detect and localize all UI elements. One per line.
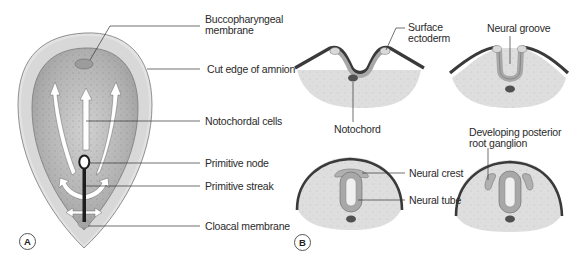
notochord bbox=[346, 216, 356, 223]
panel-b-stage-1 bbox=[295, 47, 424, 108]
label-cloacal-membrane: Cloacal membrane bbox=[205, 221, 290, 232]
label-notochordal-cells: Notochordal cells bbox=[205, 116, 282, 127]
primitive-streak bbox=[83, 165, 87, 222]
label-line: membrane bbox=[205, 25, 283, 36]
notochord bbox=[505, 216, 515, 223]
label-line: ectoderm bbox=[408, 33, 450, 44]
label-neural-tube: Neural tube bbox=[409, 195, 461, 206]
notochord bbox=[505, 86, 515, 93]
buccopharyngeal-membrane bbox=[75, 59, 93, 69]
panel-b-stage-3 bbox=[297, 157, 402, 230]
panel-b-stage-4 bbox=[455, 160, 562, 232]
notochord bbox=[348, 75, 358, 82]
primitive-node bbox=[79, 156, 89, 169]
label-neural-groove: Neural groove bbox=[487, 23, 550, 34]
label-line: root ganglion bbox=[469, 138, 561, 149]
label-primitive-streak: Primitive streak bbox=[205, 181, 274, 192]
label-cut-edge-of-amnion: Cut edge of amnion bbox=[207, 64, 295, 75]
label-notochord: Notochord bbox=[334, 124, 381, 135]
panel-a-embryo bbox=[18, 33, 152, 248]
surface-ectoderm bbox=[295, 47, 424, 72]
label-developing-posterior-root-ganglion: Developing posterior root ganglion bbox=[469, 127, 561, 149]
label-neural-crest: Neural crest bbox=[409, 168, 463, 179]
label-buccopharyngeal-membrane: Buccopharyngeal membrane bbox=[205, 14, 283, 36]
panel-b-badge: B bbox=[294, 234, 311, 251]
label-surface-ectoderm: Surface ectoderm bbox=[408, 22, 450, 44]
panel-a-badge: A bbox=[19, 233, 36, 250]
panel-b-stage-2 bbox=[450, 46, 568, 109]
label-primitive-node: Primitive node bbox=[205, 158, 269, 169]
